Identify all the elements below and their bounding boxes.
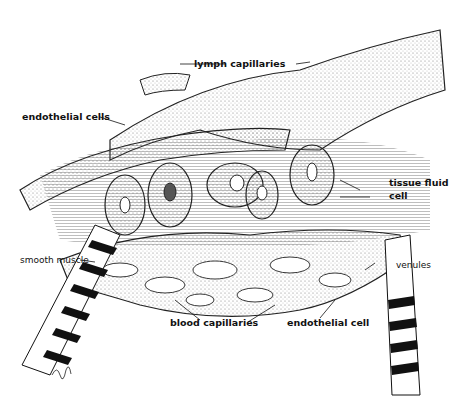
lymph-capillary-branch	[140, 73, 190, 95]
label-lymph-capillaries: lymph capillaries	[194, 59, 285, 69]
label-endothelial-cells: endothelial cells	[22, 112, 110, 122]
label-venules: venules	[396, 261, 431, 270]
label-endothelial-cell: endothelial cell	[287, 318, 369, 328]
artist-signature	[52, 367, 71, 379]
label-smooth-muscle: smooth muscle	[20, 256, 89, 265]
venule-right	[385, 235, 420, 395]
label-blood-capillaries: blood capillaries	[170, 318, 258, 328]
label-cell: cell	[389, 191, 408, 201]
label-tissue-fluid: tissue fluid	[389, 178, 448, 188]
arteriole-left	[22, 225, 120, 375]
